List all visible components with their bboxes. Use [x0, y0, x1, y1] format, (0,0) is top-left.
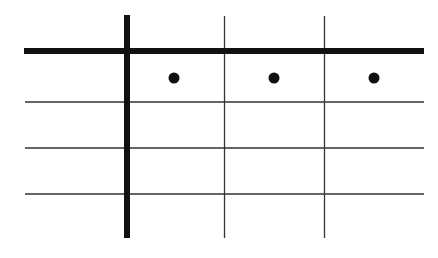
header-dot-2: [269, 73, 280, 84]
grid-diagram: [0, 0, 438, 258]
header-dot-1: [169, 73, 180, 84]
first-column-divider-thick: [124, 15, 130, 238]
header-dot-3: [369, 73, 380, 84]
header-divider-thick: [24, 48, 424, 54]
